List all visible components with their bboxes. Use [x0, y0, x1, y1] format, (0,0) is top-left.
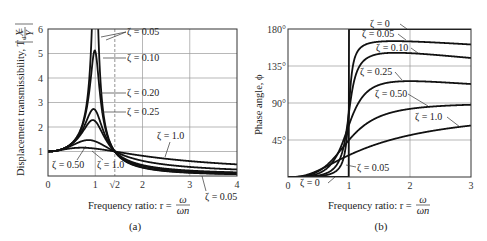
xlabel-a: Frequency ratio: r = ω ωn: [88, 194, 190, 216]
xtick-label: 1: [347, 180, 352, 191]
annotation-leader: [395, 72, 402, 80]
annotation-label: ζ = 0.05: [127, 26, 159, 38]
figure: 01√2234123456 ζ = 0.05ζ = 0.10ζ = 0.20ζ …: [0, 0, 487, 241]
xtick-label: 4: [235, 179, 240, 190]
annotation-leader: [202, 176, 206, 191]
annotation-label: ζ = 1.0: [415, 111, 442, 123]
annotation-label: ζ = 0: [300, 177, 320, 189]
xtick-label: √2: [110, 179, 121, 190]
ylabel-b: Phase angle, ϕ: [253, 74, 264, 135]
annotation-leader: [408, 94, 428, 106]
annotation-leader: [165, 142, 170, 157]
xtick-label: 2: [408, 180, 413, 191]
svg-text:Frequency ratio: r =: Frequency ratio: r =: [328, 200, 412, 211]
ytick-label: 4: [38, 73, 43, 84]
annotation-leader: [411, 48, 418, 53]
annotation-leader: [398, 34, 406, 40]
xlabel-b: Frequency ratio: r = ω ωn: [328, 194, 430, 216]
annotation-label: ζ = 1.0: [157, 130, 184, 142]
ytick-label: 3: [38, 97, 43, 108]
ytick-label: 135°: [267, 61, 286, 72]
annotation-leader: [400, 24, 407, 29]
xtick-label: 3: [469, 180, 474, 191]
annotation-label: ζ = 0.05: [362, 28, 394, 40]
annotation-leader: [346, 165, 356, 167]
ytick-label: 45°: [272, 135, 286, 146]
annotation-label: ζ = 0.05: [205, 191, 237, 203]
ytick-label: 1: [38, 146, 43, 157]
svg-text:Frequency ratio: r =: Frequency ratio: r =: [88, 200, 172, 211]
svg-text:ωn: ωn: [177, 205, 190, 216]
caption-a: (a): [129, 220, 142, 233]
svg-text:ω: ω: [419, 194, 426, 205]
annotation-label: ζ = 0.10: [376, 42, 408, 54]
annotations-b: ζ = 0ζ = 0.05ζ = 0.10ζ = 0.25ζ = 0.50ζ =…: [300, 18, 460, 189]
svg-text:ω: ω: [179, 194, 186, 205]
annotation-label: ζ = 0.50: [375, 88, 407, 100]
plot-a: 01√2234123456 ζ = 0.05ζ = 0.10ζ = 0.20ζ …: [14, 5, 240, 234]
ytick-label: 6: [38, 24, 43, 35]
ylabel-a: Displacement transmissibility, Td =: [15, 28, 28, 176]
ytick-label: 2: [38, 122, 43, 133]
xtick-label: 0: [46, 179, 51, 190]
xtick-label: 3: [187, 179, 192, 190]
annotation-label: ζ = 0.10: [127, 52, 159, 64]
series-line-b: [288, 41, 471, 177]
xtick-label: 2: [140, 179, 145, 190]
annotation-leader: [328, 177, 335, 183]
annotation-label: ζ = 0.25: [127, 106, 159, 118]
annotation-label: ζ = 0.25: [360, 66, 392, 78]
svg-text:ωn: ωn: [417, 205, 430, 216]
ytick-label: 5: [38, 48, 43, 59]
annotation-leader: [106, 32, 126, 40]
annotation-label: ζ = 0.50: [52, 159, 84, 171]
annotation-label: ζ = 0.05: [357, 162, 389, 174]
ytick-label: 90°: [272, 98, 286, 109]
plot-b: 012345°90°135°180° ζ = 0ζ = 0.05ζ = 0.10…: [253, 18, 474, 233]
annotation-leader: [447, 117, 460, 127]
xtick-label: 0: [286, 180, 291, 191]
ytick-label: 180°: [267, 24, 286, 35]
annotation-label: ζ = 1.0: [97, 159, 124, 171]
xtick-label: 1: [93, 179, 98, 190]
annotation-label: ζ = 0.20: [127, 87, 159, 99]
annotation-leader: [101, 32, 126, 37]
caption-b: (b): [375, 220, 388, 233]
